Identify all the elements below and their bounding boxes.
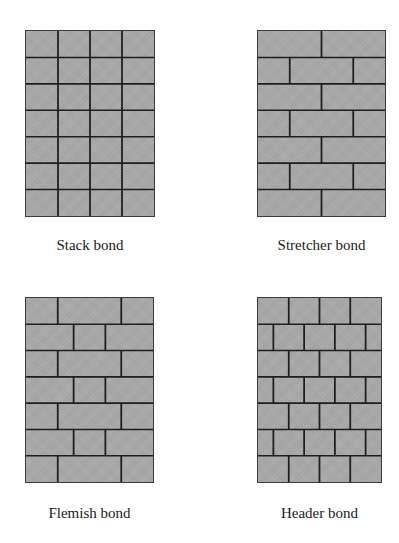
header-bond-caption: Header bond bbox=[257, 505, 382, 522]
stretcher-bond-caption: Stretcher bond bbox=[257, 237, 386, 254]
mortar-joints bbox=[26, 31, 154, 216]
stack-bond-caption: Stack bond bbox=[25, 237, 155, 254]
mortar-joints bbox=[258, 31, 385, 216]
header-bond-diagram bbox=[257, 297, 382, 483]
flemish-bond-diagram bbox=[25, 297, 154, 483]
mortar-joints bbox=[26, 298, 153, 482]
mortar-joints bbox=[258, 298, 381, 482]
flemish-bond-caption: Flemish bond bbox=[25, 505, 154, 522]
stack-bond-diagram bbox=[25, 30, 155, 217]
stretcher-bond-diagram bbox=[257, 30, 386, 217]
